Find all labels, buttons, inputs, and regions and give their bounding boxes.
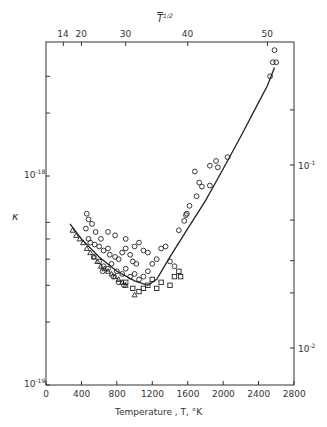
fit-curve bbox=[70, 68, 275, 286]
circle-marker bbox=[172, 264, 177, 269]
circle-marker bbox=[182, 218, 187, 223]
circle-marker bbox=[120, 250, 125, 255]
y-tick-label-1e-18: 10-18 bbox=[24, 168, 45, 180]
y-tick-exp: -18 bbox=[35, 168, 45, 175]
y-axis-label: κ bbox=[12, 210, 18, 223]
top-axis-title-exp: 1/2 bbox=[163, 12, 173, 19]
top-tick-label: 40 bbox=[182, 29, 193, 39]
circle-marker bbox=[134, 261, 139, 266]
circle-marker bbox=[145, 269, 150, 274]
top-tick-label: 14 bbox=[57, 29, 68, 39]
x-axis-label: Temperature , T, °K bbox=[115, 407, 202, 417]
right-tick-base: 10 bbox=[298, 344, 309, 354]
x-tick-label: 1600 bbox=[177, 389, 200, 399]
square-marker bbox=[159, 280, 163, 284]
circle-marker bbox=[141, 274, 146, 279]
square-marker bbox=[131, 286, 135, 290]
circle-marker bbox=[192, 169, 197, 174]
circle-marker bbox=[123, 266, 128, 271]
circle-marker bbox=[272, 48, 277, 53]
x-tick-label: 800 bbox=[108, 389, 125, 399]
circle-marker bbox=[145, 250, 150, 255]
y-tick-base: 10 bbox=[24, 170, 35, 180]
circle-marker bbox=[90, 221, 95, 226]
square-marker bbox=[141, 286, 145, 290]
circle-marker bbox=[214, 159, 219, 164]
y-tick-label-1e-19: 10-19 bbox=[24, 377, 45, 389]
circle-marker bbox=[207, 183, 212, 188]
circle-marker bbox=[86, 217, 91, 222]
circle-marker bbox=[150, 261, 155, 266]
right-tick-exp: -1 bbox=[309, 159, 315, 166]
circle-marker bbox=[132, 244, 137, 249]
x-tick-label: 2000 bbox=[212, 389, 235, 399]
circle-marker bbox=[93, 230, 98, 235]
circle-marker bbox=[107, 252, 112, 257]
circle-marker bbox=[116, 257, 121, 262]
square-marker bbox=[177, 269, 181, 273]
circle-marker bbox=[194, 194, 199, 199]
x-tick-label: 0 bbox=[43, 389, 49, 399]
circle-marker bbox=[106, 230, 111, 235]
x-tick-label: 2800 bbox=[283, 389, 306, 399]
square-marker bbox=[168, 283, 172, 287]
top-tick-label: 20 bbox=[75, 29, 86, 39]
circle-marker bbox=[137, 240, 142, 245]
top-tick-label: 30 bbox=[120, 29, 131, 39]
circle-marker bbox=[274, 60, 279, 65]
circle-marker bbox=[137, 277, 142, 282]
top-tick-label: 50 bbox=[261, 29, 272, 39]
circle-marker bbox=[215, 165, 220, 170]
circle-marker bbox=[123, 237, 128, 242]
square-marker bbox=[172, 274, 176, 278]
circle-marker bbox=[106, 246, 111, 251]
x-tick-label: 400 bbox=[73, 389, 90, 399]
circle-marker bbox=[154, 257, 159, 262]
x-tick-label: 1200 bbox=[141, 389, 164, 399]
circle-marker bbox=[176, 228, 181, 233]
circle-marker bbox=[128, 252, 133, 257]
plot-frame bbox=[46, 42, 294, 385]
y-tick-exp: -19 bbox=[35, 377, 45, 384]
right-tick-base: 10 bbox=[298, 161, 309, 171]
y-tick-base: 10 bbox=[24, 379, 35, 389]
circle-marker bbox=[184, 211, 189, 216]
circle-marker bbox=[207, 163, 212, 168]
circle-marker bbox=[109, 261, 114, 266]
circle-marker bbox=[99, 237, 104, 242]
right-tick-label-1e-1: 10-1 bbox=[298, 159, 315, 171]
square-marker bbox=[137, 289, 141, 293]
circle-marker bbox=[199, 184, 204, 189]
triangle-marker bbox=[70, 228, 75, 233]
square-marker bbox=[178, 274, 182, 278]
circle-marker bbox=[84, 211, 89, 216]
circle-marker bbox=[113, 233, 118, 238]
circle-marker bbox=[163, 244, 168, 249]
chart-canvas bbox=[0, 0, 327, 427]
circle-marker bbox=[132, 272, 137, 277]
circle-marker bbox=[123, 246, 128, 251]
circle-marker bbox=[187, 203, 192, 208]
triangle-marker bbox=[132, 292, 137, 297]
top-axis-title: T1/2 bbox=[157, 12, 173, 24]
square-marker bbox=[155, 286, 159, 290]
circle-marker bbox=[168, 259, 173, 264]
circle-marker bbox=[113, 255, 118, 260]
circle-marker bbox=[97, 244, 102, 249]
axis-ticks bbox=[46, 42, 294, 385]
circle-marker bbox=[83, 226, 88, 231]
x-tick-label: 2400 bbox=[247, 389, 270, 399]
right-tick-label-1e-2: 10-2 bbox=[298, 342, 315, 354]
right-tick-exp: -2 bbox=[309, 342, 315, 349]
